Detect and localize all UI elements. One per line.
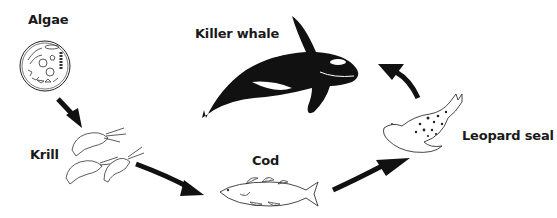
label-algae: Algae	[28, 12, 68, 27]
leopard-seal-illustration	[384, 94, 463, 152]
arrow-krill-to-cod	[136, 164, 204, 196]
cod-illustration	[220, 177, 318, 206]
label-krill: Krill	[30, 147, 59, 162]
arrow-cod-to-seal	[333, 158, 410, 190]
arrow-seal-to-whale	[378, 64, 418, 98]
label-leopard-seal: Leopard seal	[462, 128, 554, 143]
arrow-algae-to-krill	[58, 99, 82, 128]
krill-illustration	[66, 128, 144, 184]
algae-illustration	[20, 41, 70, 91]
label-cod: Cod	[252, 153, 279, 168]
label-killer-whale: Killer whale	[195, 26, 279, 41]
